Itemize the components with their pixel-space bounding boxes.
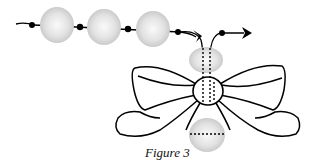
pearl-bead-1 [40, 7, 74, 43]
bead-diagram [0, 0, 310, 167]
strand-beads [40, 7, 170, 47]
figure-caption: Figure 3 [145, 145, 190, 161]
pearl-bead-2 [87, 9, 121, 45]
knot-icon [125, 26, 131, 32]
top-bead [189, 47, 223, 73]
center-bead [193, 77, 223, 105]
bottom-bead [189, 118, 225, 152]
knot-icon [29, 22, 35, 28]
pearl-bead-3 [136, 11, 170, 47]
figure-canvas: Figure 3 [0, 0, 310, 167]
knot-icon [77, 24, 83, 30]
